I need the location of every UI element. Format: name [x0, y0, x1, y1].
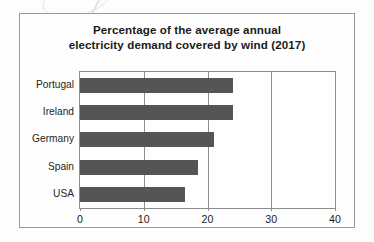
figure-frame: Percentage of the average annual electri…	[19, 13, 355, 228]
category-label-usa: USA	[53, 188, 74, 199]
x-tick-label-40: 40	[329, 213, 341, 225]
bar-row: Ireland	[80, 99, 335, 126]
category-label-spain: Spain	[48, 161, 74, 172]
x-tick-mark-10	[144, 208, 145, 211]
x-tick-mark-30	[271, 208, 272, 211]
bar-portugal	[80, 78, 233, 93]
bar-usa	[80, 187, 185, 202]
bar-row: Portugal	[80, 72, 335, 99]
bar-germany	[80, 132, 214, 147]
bar-row: USA	[80, 181, 335, 208]
x-tick-mark-0	[80, 208, 81, 211]
x-tick-label-10: 10	[138, 213, 150, 225]
x-tick-label-0: 0	[77, 213, 83, 225]
bar-row: Germany	[80, 126, 335, 153]
chart-title-line-2: electricity demand covered by wind (2017…	[20, 37, 354, 52]
bar-row: Spain	[80, 154, 335, 181]
bar-spain	[80, 160, 198, 175]
plot-area: PortugalIrelandGermanySpainUSA 010203040	[79, 71, 336, 209]
category-label-ireland: Ireland	[43, 106, 74, 117]
category-label-portugal: Portugal	[36, 79, 74, 90]
x-tick-mark-20	[208, 208, 209, 211]
scan-artifact-slash	[91, 0, 102, 13]
bar-ireland	[80, 105, 233, 120]
x-tick-mark-40	[335, 208, 336, 211]
chart-title: Percentage of the average annual electri…	[20, 22, 354, 52]
chart-title-line-1: Percentage of the average annual	[20, 22, 354, 37]
category-label-germany: Germany	[32, 133, 74, 144]
x-tick-label-30: 30	[265, 213, 277, 225]
x-tick-label-20: 20	[202, 213, 214, 225]
